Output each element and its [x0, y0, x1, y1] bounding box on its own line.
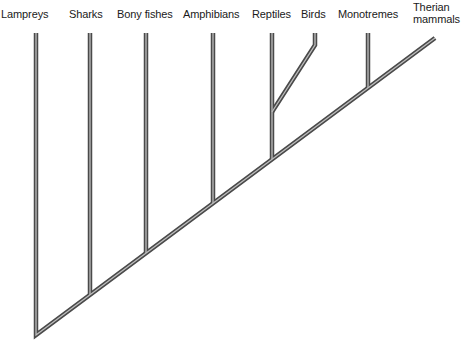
cladogram-branches [0, 0, 470, 349]
taxon-label-reptiles: Reptiles [252, 8, 291, 20]
taxon-label-monotremes: Monotremes [338, 8, 398, 20]
taxon-label-therian-mammals: Therian mammals [413, 1, 460, 25]
taxon-label-amphibians: Amphibians [183, 8, 239, 20]
taxon-label-bony-fishes: Bony fishes [117, 8, 173, 20]
taxon-label-birds: Birds [301, 8, 326, 20]
taxon-label-lampreys: Lampreys [1, 8, 49, 20]
taxon-label-sharks: Sharks [69, 8, 103, 20]
branch-line [272, 33, 315, 112]
